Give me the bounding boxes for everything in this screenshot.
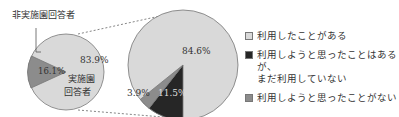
label-11-5: 11.5% [158, 88, 187, 98]
legend-item-not-yet: 利用しようと思ったことはあるが、 まだ利用していない [245, 49, 399, 85]
legend-swatch-black [245, 51, 253, 59]
legend-swatch-light-gray [245, 32, 253, 40]
label-implemented-1: 実施園 [68, 72, 95, 85]
label-83-9: 83.9% [80, 55, 109, 65]
annotation-non-implemented: 非実施園回答者 [12, 8, 75, 21]
right-pie [128, 10, 238, 117]
legend-item-used: 利用したことがある [245, 30, 399, 42]
legend-label: 利用しようと思ったことがない [257, 92, 397, 104]
label-84-6: 84.6% [182, 46, 211, 56]
legend-label: 利用したことがある [257, 30, 347, 42]
legend: 利用したことがある 利用しようと思ったことはあるが、 まだ利用していない 利用し… [245, 30, 399, 111]
label-3-9: 3.9% [127, 88, 150, 98]
label-16-1: 16.1% [38, 66, 65, 76]
legend-swatch-gray [245, 94, 253, 102]
label-implemented-2: 回答者 [64, 85, 91, 98]
legend-label: 利用しようと思ったことはあるが、 まだ利用していない [257, 49, 399, 85]
legend-item-never: 利用しようと思ったことがない [245, 92, 399, 104]
